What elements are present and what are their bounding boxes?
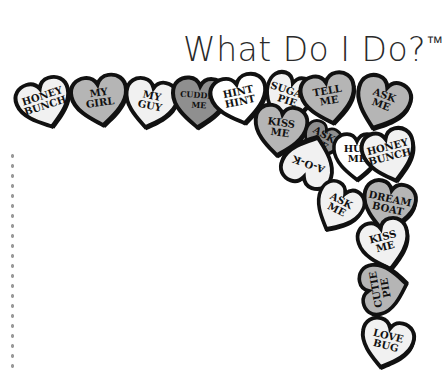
heart-line-2: ME — [375, 239, 396, 253]
page-title: What Do I Do?™ — [183, 30, 444, 69]
heart-line-2: ME — [319, 94, 339, 107]
heart-line-2: ME — [191, 99, 207, 110]
candy-heart: LOVEBUG — [352, 312, 419, 378]
heart-line-1: A-O-K — [291, 154, 326, 175]
heart-message: CUTIEPIE — [355, 258, 407, 319]
heart-line-2: GIRL — [85, 96, 115, 110]
heart-line-2: PIE — [379, 277, 392, 298]
title-text: What Do I Do? — [183, 30, 426, 69]
trademark-symbol: ™ — [426, 32, 444, 52]
candy-heart: CUTIEPIE — [355, 257, 416, 319]
dotted-line-divider — [10, 151, 15, 373]
heart-line-2: ME — [270, 126, 290, 139]
